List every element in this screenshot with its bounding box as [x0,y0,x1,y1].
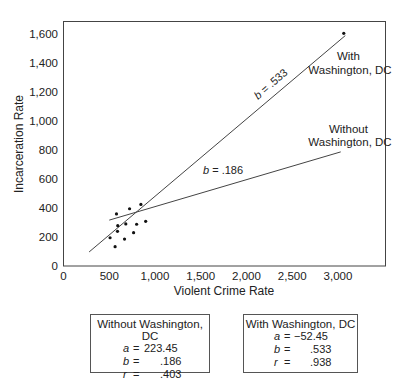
scatter-plot: 02004006008001,0001,2001,4001,600 05001,… [0,0,403,300]
without-dc-label: Without Washington, DC [308,123,391,148]
x-axis-label: Violent Crime Rate [174,284,275,298]
stat-value: 223.45 [144,342,178,355]
y-tick-label: 1,600 [29,28,58,40]
x-tick-label: 3,000 [324,270,353,282]
x-tick-label: 1,000 [141,270,170,282]
data-point [116,230,119,233]
stat-var: b [123,355,129,368]
stats-box-with-dc: With Washington, DC a = −52.45 b = .533 … [243,314,358,373]
y-tick-label: 800 [39,144,58,156]
stat-eq: = [133,368,139,381]
y-tick-label: 400 [39,202,58,214]
stat-row-a: a = −52.45 [244,330,357,343]
y-axis-label: Incarceration Rate [12,95,26,193]
stat-value: .938 [310,356,331,369]
regression-line [89,36,345,252]
stat-var: r [274,356,278,369]
stat-eq: = [284,356,290,369]
x-tick-label: 0 [60,270,66,282]
stat-var: a [274,330,280,343]
stat-row-a: a = 223.45 [91,342,209,355]
stat-row-b: b = .186 [91,355,209,368]
stat-eq: = [284,343,290,356]
stats-box-without-dc: Without Washington, DC a = 223.45 b = .1… [90,314,210,373]
with-dc-label: With Washington, DC [308,50,391,76]
stat-value: .533 [310,343,331,356]
x-tick-label: 2,000 [232,270,261,282]
data-point [114,245,117,248]
stat-value: .186 [160,355,181,368]
x-axis-ticks: 05001,0001,5002,0002,5003,000 [60,270,352,282]
stat-eq: = [133,342,139,355]
stat-var: b [274,343,280,356]
y-tick-label: 1,400 [29,57,58,69]
stat-value: −52.45 [294,330,328,343]
x-tick-label: 500 [100,270,119,282]
stat-row-b: b = .533 [244,343,357,356]
data-point [342,32,345,35]
y-tick-label: 600 [39,173,58,185]
stat-value: .403 [160,368,181,381]
stat-row-r: r = .403 [91,368,209,381]
y-axis-ticks: 02004006008001,0001,2001,4001,600 [29,28,58,272]
y-tick-label: 1,200 [29,86,58,98]
data-point [128,207,131,210]
y-tick-label: 1,000 [29,115,58,127]
regression-line [109,152,340,220]
data-point [144,220,147,223]
stats-title: Without Washington, DC [91,318,209,342]
data-point [132,231,135,234]
x-tick-label: 2,500 [278,270,307,282]
stats-title: With Washington, DC [244,318,357,330]
slope-with-label: b = .533 [251,66,289,101]
data-point [124,222,127,225]
regression-lines [89,36,345,252]
stat-eq: = [284,330,290,343]
data-point [123,237,126,240]
stat-row-r: r = .938 [244,356,357,369]
data-point [135,223,138,226]
data-point [108,236,111,239]
stat-eq: = [133,355,139,368]
stat-var: a [123,342,129,355]
y-tick-label: 200 [39,231,58,243]
data-point [139,203,142,206]
stat-var: r [123,368,127,381]
y-tick-label: 0 [52,260,58,272]
x-tick-label: 1,500 [186,270,215,282]
data-point [116,224,119,227]
data-point [115,212,118,215]
slope-without-label: b = .186 [203,164,243,176]
